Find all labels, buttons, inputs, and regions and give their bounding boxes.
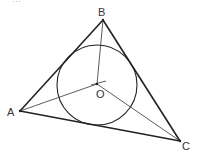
side-bc — [103, 20, 180, 141]
vertex-c-dot — [179, 140, 181, 142]
center-dot — [96, 83, 98, 85]
label-a: A — [7, 106, 15, 118]
center-mark — [91, 81, 106, 85]
label-b: B — [98, 6, 105, 18]
incircle-diagram: B A C O — [0, 0, 197, 155]
side-ca — [20, 111, 180, 141]
label-c: C — [182, 140, 190, 152]
vertex-a-dot — [19, 110, 21, 112]
segment-ob — [97, 20, 103, 84]
label-o: O — [96, 88, 105, 100]
vertex-b-dot — [102, 19, 104, 21]
